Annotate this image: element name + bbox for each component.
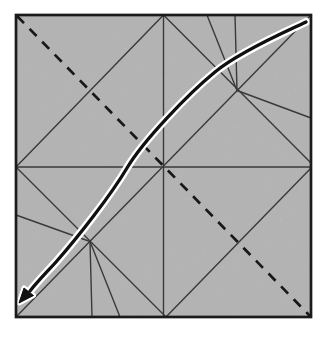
crease-pattern-svg (0, 0, 330, 338)
origami-diagram (0, 0, 330, 338)
